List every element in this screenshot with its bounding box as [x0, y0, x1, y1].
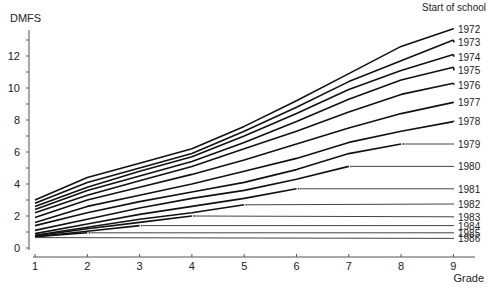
- y-tick-label: 10: [8, 82, 20, 94]
- series-line-1979: [35, 144, 401, 226]
- endpoint-marker: [350, 166, 352, 168]
- series-label-1977: 1977: [458, 97, 481, 108]
- x-tick-label: 8: [398, 260, 404, 272]
- series-label-1973: 1973: [458, 37, 481, 48]
- series-labels: 1972197319741975197619771978197919801981…: [458, 24, 481, 245]
- endpoint-marker: [298, 188, 300, 190]
- endpoint-marker: [402, 143, 404, 145]
- series-line-1980: [35, 166, 349, 230]
- leader-line-1974: [453, 54, 454, 56]
- series-line-1976: [35, 83, 453, 213]
- series-line-1982: [35, 205, 244, 235]
- legend-title: Start of school: [422, 2, 486, 13]
- y-tick-label: 2: [14, 210, 20, 222]
- series-label-1979: 1979: [458, 139, 481, 150]
- x-tick-label: 2: [84, 260, 90, 272]
- series-label-1982: 1982: [458, 199, 481, 210]
- series-line-1977: [35, 102, 453, 217]
- x-tick-label: 3: [137, 260, 143, 272]
- series-label-1978: 1978: [458, 116, 481, 127]
- axes: 024681012123456789: [8, 30, 475, 272]
- x-axis-label: Grade: [453, 272, 484, 284]
- leader-line-1983: [195, 216, 454, 217]
- y-tick-label: 0: [14, 242, 20, 254]
- y-axis-label: DMFS: [10, 12, 41, 24]
- endpoint-marker: [245, 204, 247, 206]
- leader-line-1986: [35, 238, 454, 239]
- x-tick-label: 9: [450, 260, 456, 272]
- x-tick-label: 4: [189, 260, 195, 272]
- series-label-1974: 1974: [458, 52, 481, 63]
- series-label-1975: 1975: [458, 65, 481, 76]
- endpoint-marker: [193, 215, 195, 217]
- x-tick-label: 6: [293, 260, 299, 272]
- leader-line-1978: [453, 121, 454, 122]
- series-line-1975: [35, 67, 453, 209]
- series-label-1981: 1981: [458, 184, 481, 195]
- y-tick-label: 12: [8, 50, 20, 62]
- series-label-1980: 1980: [458, 161, 481, 172]
- y-tick-label: 8: [14, 114, 20, 126]
- x-tick-label: 5: [241, 260, 247, 272]
- series-label-1986: 1986: [458, 233, 481, 244]
- leader-line-1976: [453, 83, 454, 85]
- series-line-1972: [35, 29, 453, 200]
- y-tick-label: 6: [14, 146, 20, 158]
- leader-line-1982: [247, 204, 454, 205]
- series-lines: [35, 29, 454, 239]
- x-tick-label: 7: [346, 260, 352, 272]
- y-tick-label: 4: [14, 178, 20, 190]
- series-label-1976: 1976: [458, 80, 481, 91]
- dmfs-line-chart: 024681012123456789 197219731974197519761…: [0, 0, 492, 291]
- x-tick-label: 1: [32, 260, 38, 272]
- leader-line-1975: [453, 67, 454, 70]
- series-line-1973: [35, 40, 453, 203]
- leader-line-1973: [453, 40, 454, 42]
- endpoint-marker: [141, 225, 143, 227]
- endpoint-marker: [88, 232, 90, 234]
- series-label-1972: 1972: [458, 24, 481, 35]
